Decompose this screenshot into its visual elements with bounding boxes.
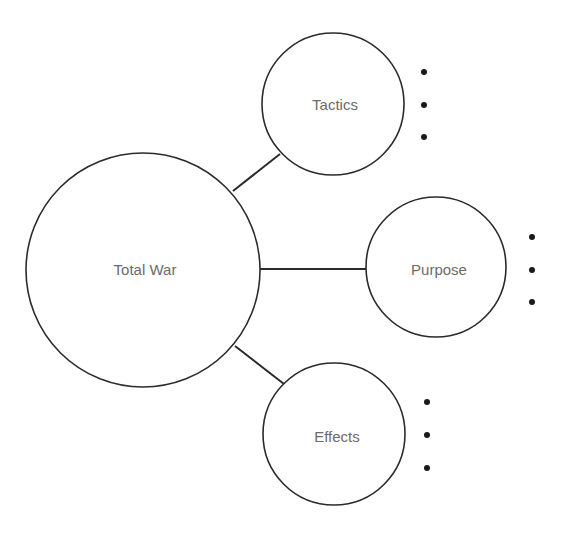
bullet-icon [529, 299, 535, 305]
bullet-icon [421, 69, 427, 75]
center-node: Total War [26, 153, 260, 387]
branch-label-purpose: Purpose [411, 261, 467, 278]
center-node-label: Total War [114, 261, 177, 278]
branch-node-tactics: Tactics [262, 33, 404, 175]
connector-effects [235, 346, 284, 384]
bullet-icon [421, 102, 427, 108]
connector-tactics [233, 154, 280, 191]
bullet-list-tactics [421, 69, 427, 140]
bullet-icon [424, 465, 430, 471]
branch-node-effects: Effects [263, 363, 405, 505]
bullet-list-effects [424, 399, 430, 471]
bullet-icon [529, 234, 535, 240]
bullet-icon [529, 267, 535, 273]
bullet-icon [421, 134, 427, 140]
bullet-list-purpose [529, 234, 535, 305]
bubble-map-diagram: Total War Tactics Purpose Effects [0, 0, 563, 537]
branch-label-effects: Effects [314, 428, 360, 445]
branch-node-purpose: Purpose [366, 197, 506, 337]
branch-label-tactics: Tactics [312, 96, 358, 113]
bullet-icon [424, 399, 430, 405]
bullet-icon [424, 432, 430, 438]
